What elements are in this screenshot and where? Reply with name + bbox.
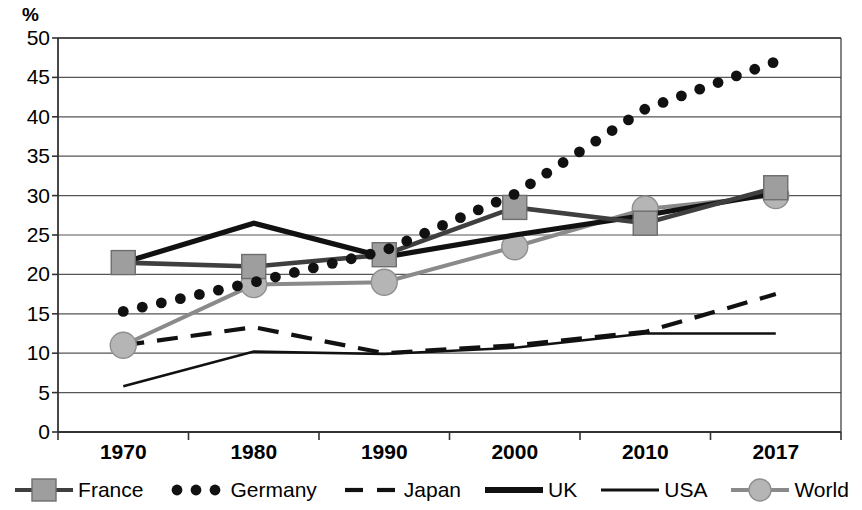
legend-item-world[interactable]: World [729,478,848,502]
dashed-key [339,478,401,502]
legend-label: World [794,478,848,502]
chart-container: % 50454035302520151050 19701980199020002… [0,0,862,510]
series-uk [123,193,776,262]
legend-label: Japan [404,478,461,502]
data-series-layer [110,57,789,386]
legend-item-uk[interactable]: UK [483,478,577,502]
legend-item-france[interactable]: France [13,478,143,502]
legend-label: Germany [230,478,316,502]
thick-line-key [483,478,545,502]
series-japan [123,294,776,353]
dotted-key [165,478,227,502]
thin-line-key [599,478,661,502]
legend-label: France [78,478,143,502]
legend-label: USA [664,478,707,502]
x-axis-tick-marks [58,432,841,440]
legend-item-japan[interactable]: Japan [339,478,461,502]
legend-item-germany[interactable]: Germany [165,478,316,502]
chart-legend: FranceGermanyJapanUKUSAWorld [0,473,862,507]
legend-item-usa[interactable]: USA [599,478,707,502]
legend-label: UK [548,478,577,502]
series-germany [118,57,779,317]
square-marker-key [13,478,75,502]
series-usa [123,334,776,387]
circle-marker-key [729,478,791,502]
plot-area [0,0,862,510]
